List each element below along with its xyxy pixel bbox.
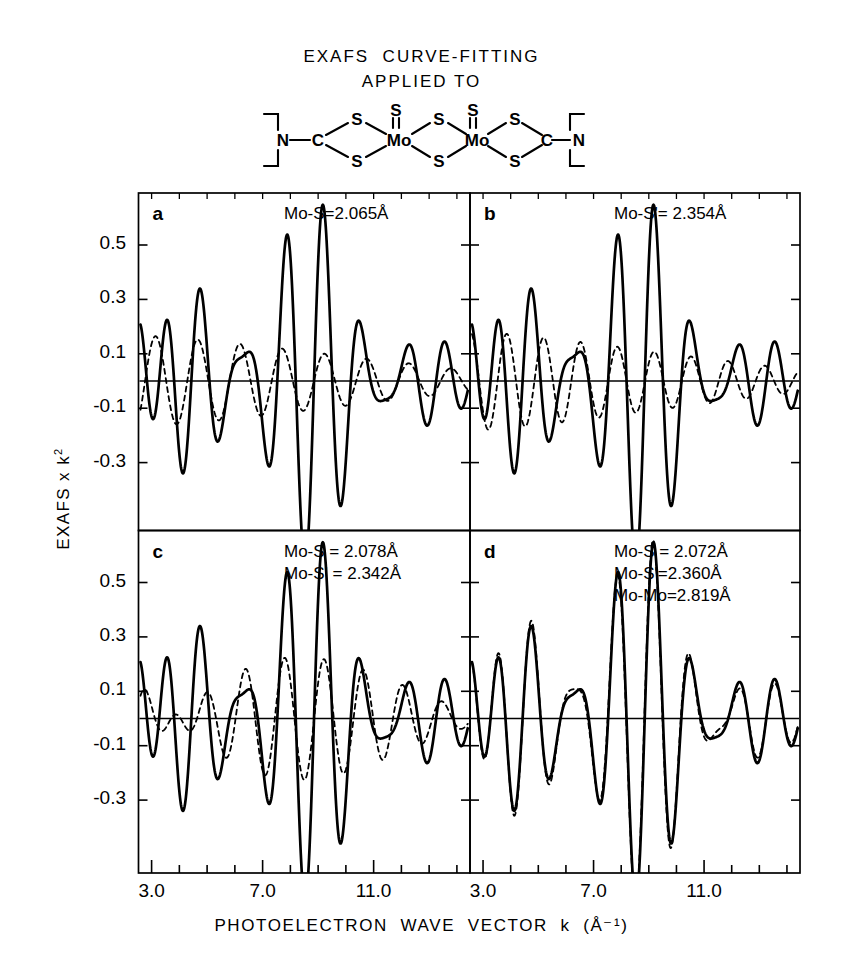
atom-label-s-terminal-2: S [467,101,478,120]
y-tick-label: 0.1 [30,678,126,700]
atom-label-mo-1: Mo [387,131,412,150]
atom-label-s-2: S [351,152,362,171]
annotation-line: Mo-Mo=2.819Å [614,585,790,607]
y-tick-label: 0.5 [30,232,126,254]
panel-a-data-curve [141,205,468,564]
annotation-line: Mo-S'=2.360Å [614,563,790,585]
atom-label-s-3: S [509,110,520,129]
panel-a-fit-curve [141,336,468,424]
panel-b-data-curve [472,205,798,564]
molecule-diagram: N C S S S Mo S S S Mo S S C N [252,100,596,180]
panel-letter-c: c [153,541,164,563]
x-tick-label: 7.0 [223,880,303,902]
y-tick-label: 0.3 [30,624,126,646]
panel-b-fit-curve [472,334,798,430]
x-tick-label: 11.0 [334,880,414,902]
title-line-2: APPLIED TO [0,69,843,94]
y-tick-label: -0.3 [30,450,126,472]
y-axis-label: EXAFS x k2 [32,386,94,636]
x-tick-label: 11.0 [664,880,744,902]
panel-d-annotations: Mo-S = 2.072ÅMo-S'=2.360ÅMo-Mo=2.819Å [614,541,790,607]
panel-letter-d: d [484,541,496,563]
panel-b-curves [471,205,799,564]
y-tick-label: -0.1 [30,395,126,417]
atom-label-c-left: C [312,131,324,150]
atom-label-n-right: N [573,131,585,150]
atom-label-mo-2: Mo [465,131,490,150]
y-tick-label: -0.3 [30,787,126,809]
atom-label-s-terminal-1: S [390,101,401,120]
panel-a-annotations: Mo-S=2.065Å [284,203,460,225]
panel-letter-a: a [153,203,164,225]
x-tick-label: 3.0 [112,880,192,902]
panel-b-frame [470,193,800,531]
panel-letter-b: b [484,203,496,225]
exafs-figure: EXAFS CURVE-FITTING APPLIED TO [0,0,843,973]
annotation-line: Mo-S=2.065Å [284,203,460,225]
panel-a-curves [140,205,470,564]
annotation-line: Mo-S' = 2.342Å [284,563,460,585]
annotation-line: Mo-S = 2.072Å [614,541,790,563]
y-tick-label: 0.3 [30,286,126,308]
panel-b-annotations: Mo-S'= 2.354Å [614,203,790,225]
atom-label-c-right: C [541,131,553,150]
y-tick-label: 0.5 [30,570,126,592]
figure-title: EXAFS CURVE-FITTING APPLIED TO [0,44,843,94]
atom-label-n-left: N [277,131,289,150]
panel-c-data-curve [141,542,468,901]
y-tick-label: -0.1 [30,733,126,755]
panel-a-frame [139,193,471,531]
x-axis-label: PHOTOELECTRON WAVE VECTOR k (Å⁻¹) [0,915,843,936]
y-tick-label: 0.1 [30,341,126,363]
atom-label-s-1: S [351,110,362,129]
annotation-line: Mo-S = 2.078Å [284,541,460,563]
panel-c-curves [140,542,470,901]
x-tick-label: 3.0 [443,880,523,902]
atom-label-s-bridge-top: S [433,110,444,129]
atom-label-s-bridge-bottom: S [433,152,444,171]
panel-c-fit-curve [141,658,468,780]
title-line-1: EXAFS CURVE-FITTING [0,44,843,69]
annotation-line: Mo-S'= 2.354Å [614,203,790,225]
panel-c-annotations: Mo-S = 2.078ÅMo-S' = 2.342Å [284,541,460,585]
atom-label-s-4: S [509,152,520,171]
x-tick-label: 7.0 [554,880,634,902]
